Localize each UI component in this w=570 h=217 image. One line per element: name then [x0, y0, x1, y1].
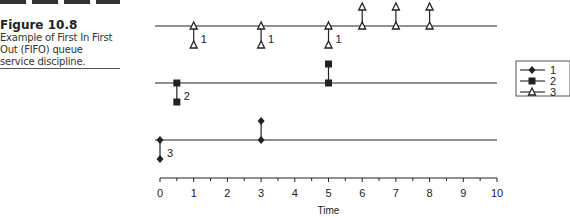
triangle-marker [359, 3, 366, 10]
square-marker [529, 78, 536, 85]
arrival-label: 1 [336, 33, 342, 45]
diamond-marker [258, 117, 265, 125]
x-tick-label: 6 [359, 187, 365, 199]
triangle-marker [426, 22, 433, 29]
arrival-label: 2 [184, 90, 190, 102]
diamond-marker [258, 136, 265, 144]
x-tick-label: 9 [460, 187, 466, 199]
triangle-marker [325, 22, 332, 29]
fifo-chart: 11123012345678910Time123 [0, 0, 570, 217]
x-axis-label: Time [318, 205, 340, 216]
triangle-marker [426, 3, 433, 10]
triangle-marker [258, 41, 265, 48]
diamond-marker [157, 136, 164, 144]
x-tick-label: 10 [491, 187, 503, 199]
diamond-marker [157, 155, 164, 163]
triangle-marker [392, 22, 399, 29]
square-marker [325, 61, 332, 68]
triangle-marker [392, 3, 399, 10]
x-tick-label: 2 [224, 187, 230, 199]
x-tick-label: 1 [191, 187, 197, 199]
triangle-marker [190, 41, 197, 48]
arrival-label: 1 [268, 33, 274, 45]
square-marker [325, 80, 332, 87]
triangle-marker [190, 22, 197, 29]
arrival-label: 1 [201, 33, 207, 45]
legend-box [516, 61, 570, 96]
x-tick-label: 4 [292, 187, 298, 199]
x-tick-label: 3 [258, 187, 264, 199]
square-marker [173, 80, 180, 87]
triangle-marker [258, 22, 265, 29]
legend-label: 3 [550, 86, 556, 98]
x-tick-label: 8 [427, 187, 433, 199]
triangle-marker [359, 22, 366, 29]
triangle-marker [325, 41, 332, 48]
x-tick-label: 0 [157, 187, 163, 199]
x-tick-label: 5 [325, 187, 331, 199]
square-marker [173, 99, 180, 106]
arrival-label: 3 [167, 147, 173, 159]
x-tick-label: 7 [393, 187, 399, 199]
